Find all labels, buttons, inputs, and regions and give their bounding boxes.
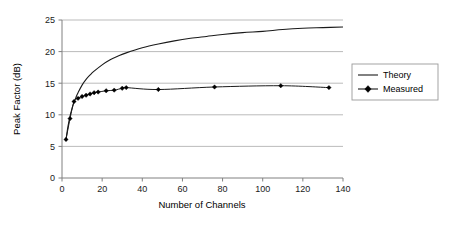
y-tick-label-15: 15 <box>45 79 55 89</box>
chart-legend: Theory Measured <box>352 64 438 100</box>
x-tick-label-140: 140 <box>335 184 350 194</box>
peak-factor-chart: 020406080100120140 0510152025 Number of … <box>0 0 450 232</box>
x-axis-ticks <box>62 178 343 182</box>
y-axis-title: Peak Factor (dB) <box>11 63 22 135</box>
x-tick-label-100: 100 <box>255 184 270 194</box>
x-axis-tick-labels: 020406080100120140 <box>59 184 350 194</box>
legend-label-theory: Theory <box>383 70 412 80</box>
y-tick-label-0: 0 <box>50 173 55 183</box>
x-tick-label-80: 80 <box>218 184 228 194</box>
x-tick-label-20: 20 <box>97 184 107 194</box>
chart-container: 020406080100120140 0510152025 Number of … <box>0 0 450 232</box>
x-axis-title: Number of Channels <box>158 199 245 210</box>
plot-area <box>62 20 343 178</box>
x-tick-label-0: 0 <box>59 184 64 194</box>
y-axis-ticks <box>59 20 63 178</box>
y-axis-tick-labels: 0510152025 <box>45 15 55 183</box>
y-tick-label-25: 25 <box>45 15 55 25</box>
x-tick-label-120: 120 <box>295 184 310 194</box>
y-tick-label-20: 20 <box>45 47 55 57</box>
y-tick-label-5: 5 <box>50 142 55 152</box>
legend-label-measured: Measured <box>383 84 423 94</box>
x-tick-label-60: 60 <box>177 184 187 194</box>
y-tick-label-10: 10 <box>45 110 55 120</box>
x-tick-label-40: 40 <box>137 184 147 194</box>
